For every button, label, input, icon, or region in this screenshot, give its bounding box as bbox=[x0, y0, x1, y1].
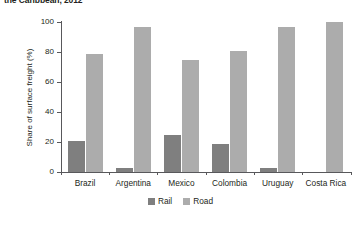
bar-rail-argentina[interactable] bbox=[116, 168, 133, 173]
x-tick-mark bbox=[351, 172, 352, 175]
x-tick-mark bbox=[254, 172, 255, 175]
y-tick-label: 40 bbox=[14, 108, 54, 116]
legend-label: Rail bbox=[158, 197, 172, 206]
x-tick-mark bbox=[206, 172, 207, 175]
bar-group bbox=[116, 22, 151, 172]
bar-rail-uruguay[interactable] bbox=[260, 168, 277, 173]
y-tick-label: 80 bbox=[14, 48, 54, 56]
bar-group bbox=[212, 22, 247, 172]
chart-title: the Caribbean, 2012 bbox=[4, 0, 344, 6]
x-label-argentina: Argentina bbox=[109, 178, 157, 188]
bar-road-brazil[interactable] bbox=[86, 54, 103, 173]
bar-rail-mexico[interactable] bbox=[164, 135, 181, 173]
bar-group bbox=[308, 22, 343, 172]
x-label-costa-rica: Costa Rica bbox=[302, 178, 350, 188]
bar-rail-brazil[interactable] bbox=[68, 141, 85, 173]
bar-road-argentina[interactable] bbox=[134, 27, 151, 173]
y-tick-label: 60 bbox=[14, 78, 54, 86]
bar-road-costa-rica[interactable] bbox=[326, 22, 343, 172]
x-tick-mark bbox=[109, 172, 110, 175]
chart-legend: RailRoad bbox=[0, 197, 361, 206]
y-tick-label: 20 bbox=[14, 138, 54, 146]
bar-road-mexico[interactable] bbox=[182, 60, 199, 173]
bar-road-uruguay[interactable] bbox=[278, 27, 295, 173]
x-label-colombia: Colombia bbox=[206, 178, 254, 188]
plot-area bbox=[61, 22, 350, 172]
x-tick-mark bbox=[61, 172, 62, 175]
legend-item-rail[interactable]: Rail bbox=[148, 197, 172, 206]
x-label-uruguay: Uruguay bbox=[254, 178, 302, 188]
x-label-mexico: Mexico bbox=[157, 178, 205, 188]
bar-rail-colombia[interactable] bbox=[212, 144, 229, 173]
x-label-brazil: Brazil bbox=[61, 178, 109, 188]
y-tick-label: 100 bbox=[14, 18, 54, 26]
legend-label: Road bbox=[193, 197, 213, 206]
x-tick-mark bbox=[157, 172, 158, 175]
bar-road-colombia[interactable] bbox=[230, 51, 247, 173]
bar-group bbox=[164, 22, 199, 172]
bar-group bbox=[260, 22, 295, 172]
legend-swatch-road-icon bbox=[183, 198, 190, 205]
bar-group bbox=[68, 22, 103, 172]
x-tick-mark bbox=[302, 172, 303, 175]
chart-figure: the Caribbean, 2012 Share of surface fre… bbox=[0, 0, 361, 226]
legend-item-road[interactable]: Road bbox=[183, 197, 213, 206]
legend-swatch-rail-icon bbox=[148, 198, 155, 205]
y-tick-label: 0 bbox=[14, 168, 54, 176]
